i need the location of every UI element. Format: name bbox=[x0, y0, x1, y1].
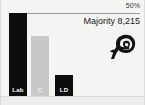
bar-label-ld: LD bbox=[55, 87, 73, 94]
bar-lab: Lab bbox=[9, 13, 27, 96]
bar-ld: LD bbox=[55, 75, 73, 96]
fifty-percent-label: 50% bbox=[126, 1, 140, 10]
bar-label-lab: Lab bbox=[9, 87, 27, 94]
election-result-chart: 50% Majority 8,215 bbox=[0, 0, 145, 105]
labour-rose-icon bbox=[107, 30, 139, 62]
chart-bottom-strip bbox=[0, 97, 145, 105]
bar-c: C bbox=[31, 36, 49, 96]
bar-label-c: C bbox=[31, 87, 49, 94]
fifty-percent-reference-line bbox=[9, 13, 140, 14]
majority-label: Majority 8,215 bbox=[83, 15, 140, 27]
